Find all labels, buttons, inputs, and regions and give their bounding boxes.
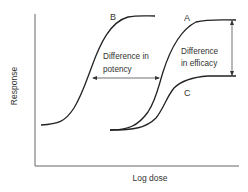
efficacy-label-line1: Difference	[181, 47, 219, 56]
curve-b	[41, 16, 155, 125]
efficacy-arrow-top-head	[230, 20, 234, 25]
potency-label-line1: Difference in	[103, 52, 149, 61]
dose-response-diagram: B A C Difference in potency Difference i…	[0, 0, 248, 192]
curve-c-label: C	[184, 88, 191, 98]
curve-c	[110, 76, 236, 130]
curve-a	[110, 20, 236, 130]
curve-a-label: A	[184, 13, 190, 23]
potency-arrow-left-head	[92, 76, 97, 80]
efficacy-label-line2: in efficacy	[181, 59, 218, 68]
x-axis-label: Log dose	[133, 173, 168, 183]
efficacy-arrow-bottom-head	[230, 71, 234, 76]
curve-b-label: B	[110, 12, 116, 22]
potency-label-line2: potency	[103, 65, 133, 74]
potency-arrow-right-head	[155, 76, 160, 80]
y-axis-label: Response	[9, 67, 19, 106]
